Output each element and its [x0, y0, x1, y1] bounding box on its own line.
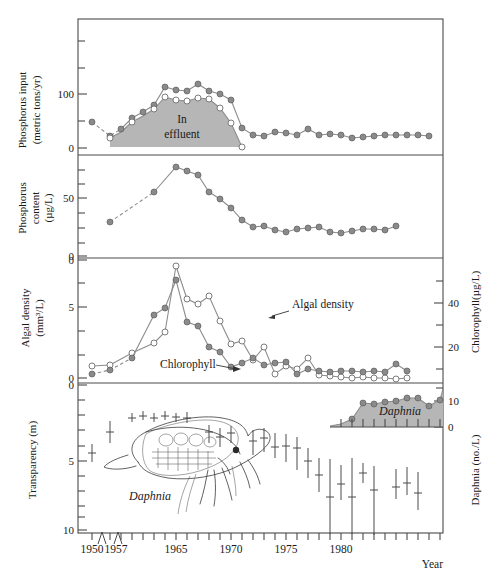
panel3-annotation-algal-density: Algal density [292, 298, 354, 311]
panel3-chloro-markers [89, 277, 410, 377]
panel4-annotation-daphnia-inset: Daphnia [378, 404, 421, 418]
panel3-algal-markers [89, 263, 410, 382]
panel2-ylabel-line1: Phosphorus [16, 182, 28, 233]
panel3-ylabel-right: Chlorophyll(µg/L) [469, 271, 482, 353]
panel3-algal-line [92, 266, 407, 379]
daphnia-illustration: Daphnia [104, 417, 270, 514]
panel-frames [78, 19, 443, 533]
outer-frame [78, 19, 443, 533]
algal-leader-arrow [268, 315, 275, 319]
panel4-ylabel-left: Transparency (m) [26, 421, 39, 499]
figure-root: 100 0 Phosphorus input (metric tons/yr) [0, 0, 487, 585]
panel4-ytick-5: 5 [69, 455, 75, 467]
multi-panel-chart: 100 0 Phosphorus input (metric tons/yr) [0, 0, 487, 585]
panel3-ytick-right-20: 20 [448, 341, 460, 353]
x-axis: 1950 1957 1965 1970 1975 1980 Year [81, 532, 444, 570]
panel1-ylabel-line1: Phosphorus input [16, 72, 28, 149]
panel4-yticks-left [78, 385, 87, 530]
x-ticklabel-1975: 1975 [275, 543, 298, 555]
panel-phosphorus-content: 50 0 Phosphorus content (µg/L) [16, 164, 399, 262]
panel3-ytick-5: 5 [69, 301, 75, 313]
panel-transparency-daphnia: 0 5 10 Transparency (m) 10 0 Daphnia (no… [26, 379, 482, 536]
panel4-ytick-0: 0 [69, 379, 75, 391]
panel2-ylabel-line2: content [29, 192, 41, 224]
panel4-ylabel-right: Daphnia (no./L) [469, 434, 482, 505]
panel3-yticks-left [78, 260, 87, 378]
panel3-ylabel-line1: Algal density [19, 288, 31, 347]
panel3-ytick-right-40: 40 [448, 297, 460, 309]
panel1-ytick-100: 100 [58, 88, 75, 100]
panel4-ytick-10: 10 [63, 524, 75, 536]
panel3-ytick-0-top: 0 [69, 254, 75, 266]
panel2-yticks [78, 170, 87, 256]
panel2-ylabel-line3: (µg/L) [42, 193, 55, 222]
panel2-ytick-50: 50 [63, 192, 75, 204]
panel1-annotation-effluent: effluent [164, 128, 200, 140]
x-ticklabel-1957: 1957 [105, 543, 128, 555]
panel2-line-early [110, 192, 154, 222]
x-ticklabel-1980: 1980 [330, 543, 353, 555]
panel1-ylabel-line2: (metric tons/yr) [30, 75, 43, 144]
x-ticklabel-1950: 1950 [81, 543, 104, 555]
x-ticklabel-1965: 1965 [165, 543, 188, 555]
panel-algal-density: 0 5 0 Algal density (mm³/L) 40 20 Chloro… [19, 254, 482, 384]
panel4-ytick-right-0: 0 [448, 421, 454, 433]
panel3-yticks-right [434, 281, 443, 369]
panel1-yticks [78, 41, 87, 148]
panel1-annotation-in: In [177, 113, 187, 125]
chloro-leader-arrow [233, 366, 241, 372]
panel3-annotation-chlorophyll: Chlorophyll [160, 358, 216, 371]
panel4-ytick-right-10: 10 [448, 395, 460, 407]
x-ticklabel-1970: 1970 [220, 543, 243, 555]
panel2-line [154, 167, 396, 233]
x-axis-title: Year [422, 558, 443, 570]
panel2-markers [107, 164, 399, 236]
daphnia-drawing-label: Daphnia [128, 489, 171, 503]
panel3-ylabel-line2: (mm³/L) [33, 299, 46, 337]
panel1-ytick-0: 0 [69, 142, 75, 154]
daphnia-eye [233, 447, 239, 453]
x-axis-ticks [92, 533, 440, 540]
